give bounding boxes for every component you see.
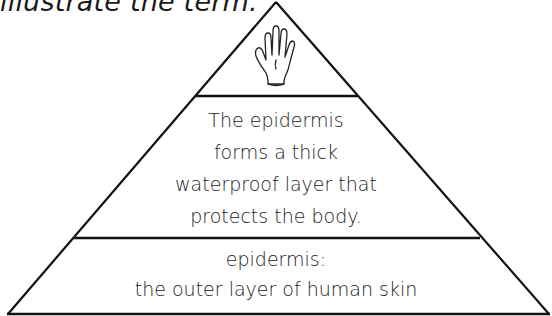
hand-icon (256, 26, 295, 86)
middle-tier-line: The epidermis (0, 104, 552, 136)
middle-tier-line: protects the body. (0, 200, 552, 232)
bottom-tier-text: epidermis: the outer layer of human skin (0, 244, 552, 304)
term-definition: the outer layer of human skin (0, 274, 552, 304)
term-label: epidermis: (0, 244, 552, 274)
middle-tier-line: forms a thick (0, 136, 552, 168)
middle-tier-text: The epidermis forms a thick waterproof l… (0, 104, 552, 232)
middle-tier-line: waterproof layer that (0, 168, 552, 200)
